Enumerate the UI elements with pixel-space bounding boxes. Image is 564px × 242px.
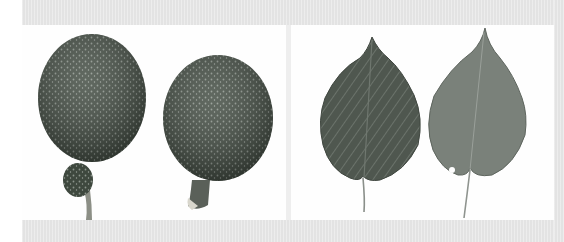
leaf-right <box>429 28 526 218</box>
fruit-left <box>38 34 146 220</box>
leaf-left <box>320 37 420 212</box>
figure-illustration <box>0 0 564 242</box>
fruit-right <box>163 55 273 210</box>
